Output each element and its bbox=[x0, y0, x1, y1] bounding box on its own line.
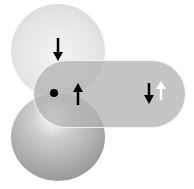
nucleus-dot-icon bbox=[50, 89, 58, 97]
spin-down-arrow-icon bbox=[52, 38, 64, 62]
spin-up-white-arrow-icon bbox=[156, 81, 166, 101]
spin-down-arrow-icon bbox=[143, 83, 155, 105]
spin-up-arrow-icon bbox=[72, 83, 84, 105]
